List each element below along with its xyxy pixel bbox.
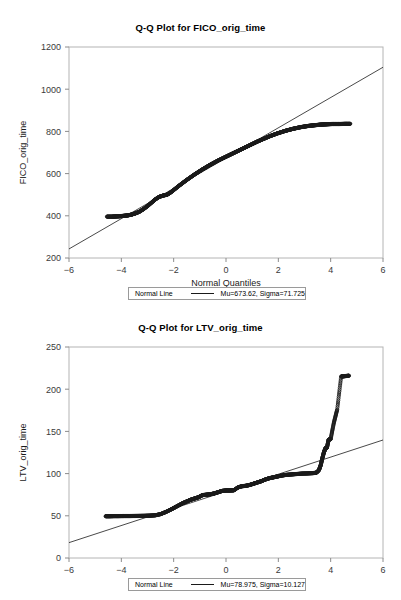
legend-line-swatch-icon-2 (191, 584, 214, 585)
x-tick-label: 2 (276, 265, 281, 275)
y-tick-label: 0 (56, 553, 61, 563)
normal-line (69, 440, 383, 543)
data-layer (69, 67, 383, 249)
x-tick-label: 6 (380, 565, 385, 575)
x-tick-label: 4 (328, 265, 333, 275)
x-tick-label: −4 (116, 265, 126, 275)
qq-plot-ltv: Q-Q Plot for LTV_orig_time −6−4−20246050… (0, 300, 401, 600)
y-tick-label: 100 (46, 469, 61, 479)
y-tick-label: 50 (51, 511, 61, 521)
x-tick-label: 4 (328, 565, 333, 575)
y-tick-label: 200 (46, 253, 61, 263)
x-tick-label: 6 (380, 265, 385, 275)
x-tick-label: −2 (169, 565, 179, 575)
y-axis-label: LTV_orig_time (18, 424, 28, 482)
plot-canvas-ltv: −6−4−20246050100150200250Normal Quantile… (0, 300, 401, 600)
x-tick-label: −6 (64, 565, 74, 575)
plot-frame (69, 347, 383, 558)
x-tick-label: −2 (169, 265, 179, 275)
qq-plot-fico: Q-Q Plot for FICO_orig_time −6−4−2024620… (0, 0, 401, 310)
y-tick-label: 400 (46, 211, 61, 221)
y-tick-label: 800 (46, 127, 61, 137)
legend-label-normal-line-2: Normal Line (129, 581, 173, 588)
legend-stats-fico: Mu=673.62, Sigma=71.725 (221, 290, 305, 297)
y-tick-label: 200 (46, 385, 61, 395)
plot-canvas-fico: −6−4−2024620040060080010001200Normal Qua… (0, 0, 401, 300)
legend-label-normal-line: Normal Line (129, 290, 173, 297)
legend-ltv: Normal Line Mu=78.975, Sigma=10.127 (128, 578, 306, 591)
legend-line-swatch-icon (191, 293, 214, 294)
y-axis-label: FICO_orig_time (18, 121, 28, 185)
x-tick-label: −4 (116, 565, 126, 575)
y-tick-label: 1200 (41, 42, 61, 52)
legend-stats-ltv: Mu=78.975, Sigma=10.127 (221, 581, 305, 588)
x-tick-label: 0 (223, 565, 228, 575)
data-layer (69, 374, 383, 542)
plot-frame (69, 47, 383, 258)
y-tick-label: 250 (46, 342, 61, 352)
x-tick-label: 0 (223, 265, 228, 275)
x-tick-label: 2 (276, 565, 281, 575)
x-tick-label: −6 (64, 265, 74, 275)
y-tick-label: 1000 (41, 85, 61, 95)
normal-line (69, 67, 383, 249)
y-tick-label: 600 (46, 169, 61, 179)
y-tick-label: 150 (46, 427, 61, 437)
legend-fico: Normal Line Mu=673.62, Sigma=71.725 (128, 287, 306, 300)
